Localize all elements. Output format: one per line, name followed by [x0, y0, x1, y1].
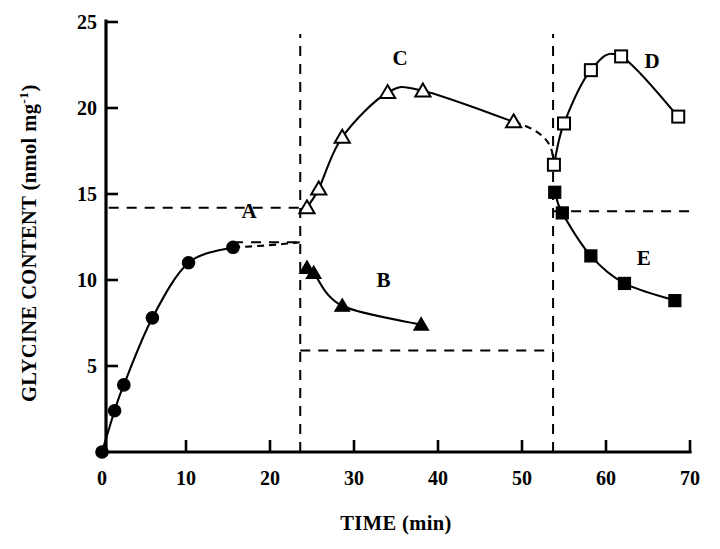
x-tick-label-40: 40 [428, 467, 448, 489]
series-d [548, 50, 684, 170]
series-e-point-1 [556, 207, 568, 219]
figure-root: GLYCINE CONTENT (nmol mg-1) TIME (min) 2… [0, 0, 720, 549]
series-c-point-0-shape [299, 200, 314, 213]
y-axis-title-suffix: ) [18, 84, 41, 91]
y-tick-label-20: 20 [77, 97, 97, 119]
y-tick-label-15: 15 [77, 183, 97, 205]
series-e-point-3-shape [618, 277, 630, 289]
series-c-point-3 [380, 85, 395, 98]
series-a-point-4-shape [182, 257, 194, 269]
y-axis-title-group: GLYCINE CONTENT (nmol mg-1) [16, 84, 41, 402]
series-b-point-2 [335, 299, 350, 312]
series-e-point-3 [618, 277, 630, 289]
series-a-point-0 [96, 446, 108, 458]
series-b-line [307, 268, 421, 325]
series-a-point-5 [227, 241, 239, 253]
series-d-point-2-shape [585, 64, 597, 76]
x-axis-tick-labels: 0 10 20 30 40 50 60 70 [97, 467, 700, 489]
series-a [96, 241, 300, 458]
series-e-line [555, 192, 675, 300]
series-d-point-4-shape [672, 111, 684, 123]
series-e-point-2 [585, 250, 597, 262]
x-axis-ticks [186, 440, 690, 452]
y-tick-label-10: 10 [77, 269, 97, 291]
series-c-line [307, 87, 514, 208]
series-a-point-2 [118, 379, 130, 391]
y-axis-tick-labels: 25 20 15 10 5 [77, 11, 97, 377]
series-label-d: D [645, 49, 660, 73]
series-e-point-1-shape [556, 207, 568, 219]
series-a-point-0-shape [96, 446, 108, 458]
series-b-point-2-shape [335, 299, 350, 312]
series-e-point-2-shape [585, 250, 597, 262]
x-tick-label-50: 50 [512, 467, 532, 489]
series-c-point-3-shape [380, 85, 395, 98]
series-d-point-3 [615, 50, 627, 62]
series-label-e: E [637, 246, 651, 270]
series-a-point-5-shape [227, 241, 239, 253]
y-axis-title: GLYCINE CONTENT (nmol mg-1) [16, 84, 41, 402]
series-label-b: B [376, 268, 390, 292]
series-d-point-1-shape [558, 117, 570, 129]
series-e-point-4-shape [669, 295, 681, 307]
series-c [299, 83, 552, 213]
series-c-point-0 [299, 200, 314, 213]
series-d-point-3-shape [615, 50, 627, 62]
y-axis-title-superscript: -1 [16, 92, 31, 104]
x-tick-label-10: 10 [176, 467, 196, 489]
series-d-point-1 [558, 117, 570, 129]
data-series-layer [96, 50, 684, 458]
x-tick-label-20: 20 [260, 467, 280, 489]
series-e-point-0-shape [549, 186, 561, 198]
series-label-a: A [241, 199, 257, 223]
x-tick-label-60: 60 [596, 467, 616, 489]
series-d-point-0-shape [548, 159, 560, 171]
y-axis-title-text: GLYCINE CONTENT (nmol mg [18, 103, 41, 402]
y-axis-ticks [106, 22, 118, 366]
x-tick-label-0: 0 [97, 467, 107, 489]
series-b [300, 261, 429, 330]
series-label-c: C [393, 46, 408, 70]
glycine-content-time-chart: GLYCINE CONTENT (nmol mg-1) TIME (min) 2… [0, 0, 720, 549]
series-a-point-4 [182, 257, 194, 269]
x-tick-label-70: 70 [680, 467, 700, 489]
series-a-point-2-shape [118, 379, 130, 391]
series-a-line [102, 247, 233, 452]
series-a-point-3 [146, 312, 158, 324]
series-a-point-3-shape [146, 312, 158, 324]
y-tick-label-25: 25 [77, 11, 97, 33]
guide-lines-layer [109, 34, 690, 452]
x-tick-label-30: 30 [344, 467, 364, 489]
series-a-point-1-shape [108, 405, 120, 417]
series-e-point-4 [669, 295, 681, 307]
y-tick-label-5: 5 [87, 355, 97, 377]
series-e [549, 186, 681, 306]
series-c-point-1-shape [311, 181, 326, 194]
series-d-point-4 [672, 111, 684, 123]
series-d-point-0 [548, 159, 560, 171]
x-axis-title: TIME (min) [340, 512, 452, 535]
series-e-point-0 [549, 186, 561, 198]
series-a-point-1 [108, 405, 120, 417]
series-c-point-1 [311, 181, 326, 194]
series-d-point-2 [585, 64, 597, 76]
